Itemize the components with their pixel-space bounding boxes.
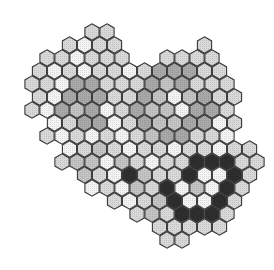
hexagonal-lattice-figure: [0, 0, 274, 270]
hex-cells-group: [25, 24, 264, 248]
